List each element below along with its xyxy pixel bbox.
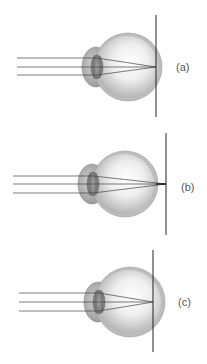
eye-focus-diagram: (a) (b) (c) bbox=[0, 0, 207, 364]
panel-a-eye bbox=[17, 15, 162, 117]
panel-c-eye bbox=[19, 250, 165, 352]
panel-b-label: (b) bbox=[181, 181, 194, 193]
panel-c-label: (c) bbox=[178, 296, 191, 308]
panel-b-eye bbox=[13, 133, 166, 235]
panel-a-label: (a) bbox=[176, 61, 189, 73]
